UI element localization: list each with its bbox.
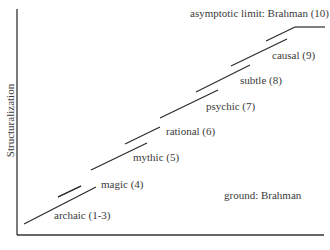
- segment-limit-rise: [266, 27, 295, 41]
- level-label-archaic: archaic (1-3): [54, 210, 111, 221]
- level-label-causal: causal (9): [272, 50, 315, 61]
- level-label-psychic: psychic (7): [206, 101, 255, 112]
- limit-label: asymptotic limit: Brahman (10): [190, 8, 329, 19]
- y-axis-label: Structuralization: [5, 76, 16, 166]
- level-label-rational: rational (6): [166, 126, 215, 137]
- segment-rational-line: [158, 96, 202, 118]
- level-label-magic: magic (4): [101, 179, 143, 190]
- level-label-subtle: subtle (8): [240, 75, 282, 86]
- diagram-canvas: [0, 0, 330, 250]
- ground-label: ground: Brahman: [224, 190, 301, 201]
- level-label-mythic: mythic (5): [133, 152, 179, 163]
